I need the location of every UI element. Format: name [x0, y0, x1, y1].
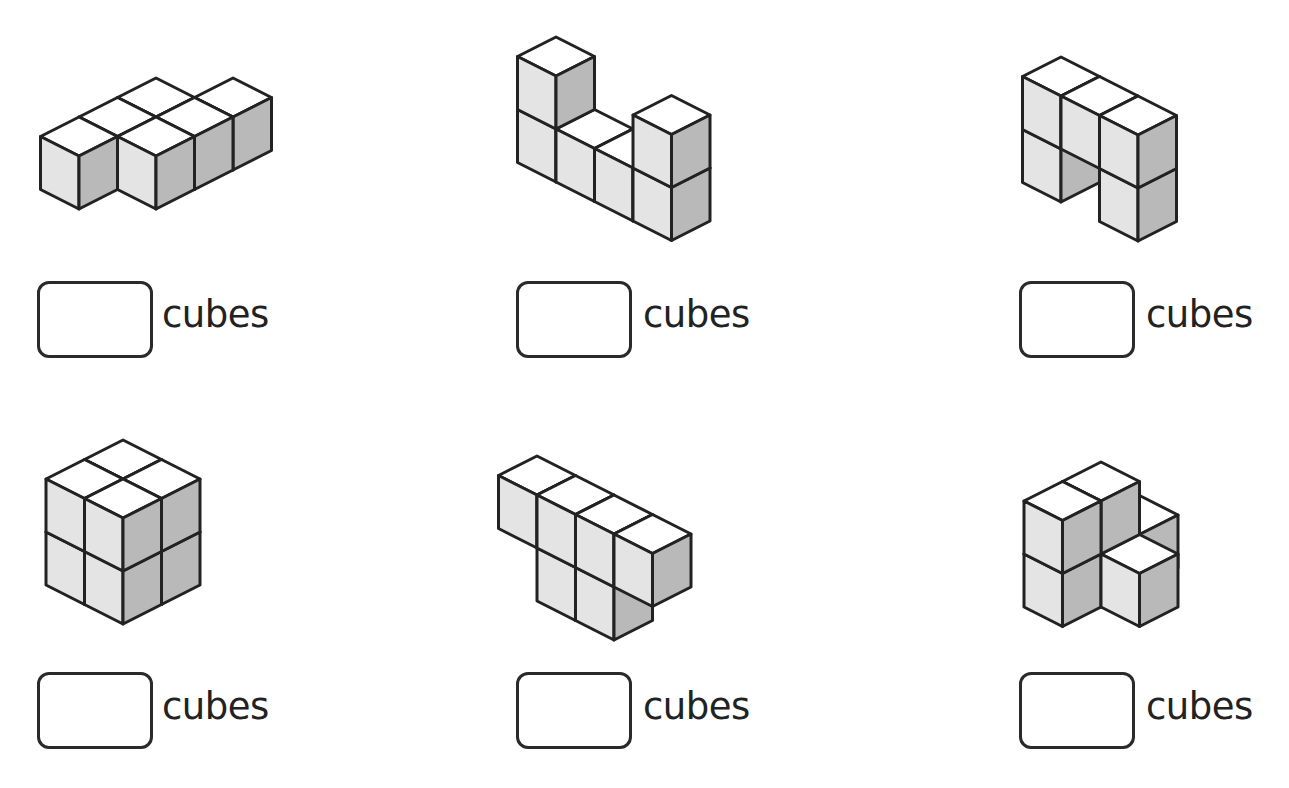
cube-figure-4: [46, 440, 200, 624]
cube-figure-3: [1023, 57, 1177, 241]
cubes-label-6: cubes: [1146, 688, 1253, 725]
cubes-label-5: cubes: [643, 688, 750, 725]
answer-box-1[interactable]: [37, 281, 153, 358]
cubes-label-2: cubes: [643, 296, 750, 333]
answer-box-4[interactable]: [37, 672, 153, 749]
cube-figure-2: [518, 37, 711, 241]
answer-box-3[interactable]: [1019, 281, 1135, 358]
answer-box-2[interactable]: [516, 281, 632, 358]
cubes-label-3: cubes: [1146, 296, 1253, 333]
answer-box-6[interactable]: [1019, 672, 1135, 749]
cube-figure-1: [41, 78, 272, 209]
cube-figures-canvas: [0, 0, 1289, 788]
cube-figure-5: [499, 456, 692, 640]
cubes-label-4: cubes: [162, 688, 269, 725]
cube-figure-6: [1024, 462, 1178, 627]
answer-box-5[interactable]: [516, 672, 632, 749]
cubes-label-1: cubes: [162, 296, 269, 333]
